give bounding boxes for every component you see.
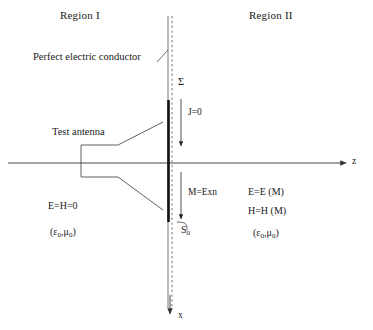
- left-media-sub-eps: 0: [58, 231, 62, 239]
- left-media-equation: (ε0,μ0): [50, 227, 76, 239]
- right-fields-e-equation: E=E (M): [248, 187, 284, 197]
- conductor-leader-line: [157, 50, 168, 62]
- x-axis-label: x: [178, 311, 183, 321]
- sigma-label: Σ: [178, 77, 184, 88]
- region-ii-label: Region II: [249, 10, 293, 21]
- figure-canvas: Region I Region II Perfect electric cond…: [0, 0, 373, 330]
- horn-antenna-outline-lower: [81, 145, 163, 210]
- right-media-equation: (ε0,μ0): [253, 228, 279, 240]
- left-media-sub-mu: 0: [69, 231, 73, 239]
- perfect-electric-conductor-label: Perfect electric conductor: [33, 52, 141, 63]
- diagram-vectors: [0, 0, 373, 330]
- left-fields-equation: E=H=0: [48, 201, 78, 211]
- region-i-label: Region I: [60, 10, 100, 21]
- right-media-sub-eps: 0: [261, 232, 265, 240]
- j-zero-label: J=0: [188, 108, 202, 118]
- s0-label: S0: [181, 225, 190, 237]
- s0-subscript: 0: [187, 229, 191, 237]
- m-exn-label: M=Exn: [188, 188, 217, 198]
- right-fields-h-equation: H=H (M): [248, 206, 286, 216]
- z-axis-label: z: [352, 157, 356, 167]
- right-media-sub-mu: 0: [272, 232, 276, 240]
- test-antenna-label: Test antenna: [52, 127, 105, 138]
